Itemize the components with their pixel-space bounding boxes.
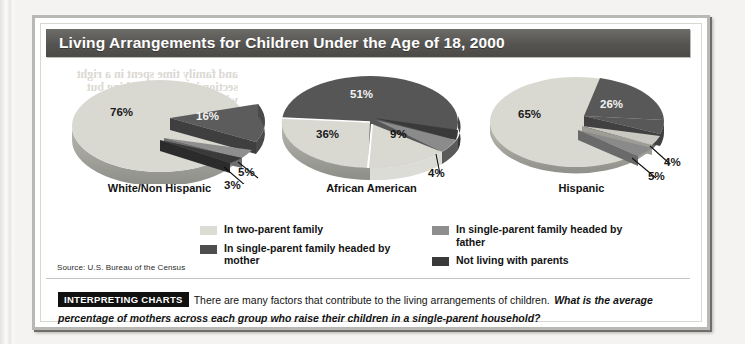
pie-2-slice-label-1: 36% bbox=[316, 128, 339, 140]
legend-label-father: In single-parent family headed by father bbox=[456, 223, 647, 248]
source-note: Source: U.S. Bureau of the Census bbox=[57, 263, 185, 272]
figure-title-bar: Living Arrangements for Children Under t… bbox=[46, 29, 690, 57]
legend-label-two-parent: In two-parent family bbox=[224, 223, 323, 236]
pie-3-slice-label-0: 65% bbox=[518, 108, 541, 120]
chart-legend: In two-parent family In single-parent fa… bbox=[200, 223, 630, 271]
pie-2-graphic: 51% 36% 9% 4% bbox=[264, 66, 479, 184]
pie-2-svg bbox=[264, 66, 479, 184]
interpreting-charts-badge: INTERPRETING CHARTS bbox=[58, 292, 189, 307]
pie-2-caption: African American bbox=[264, 182, 479, 194]
pie-chart-african-american: 51% 36% 9% 4% African American bbox=[264, 66, 479, 211]
pie-3-slice-label-1: 26% bbox=[600, 98, 623, 110]
figure-title: Living Arrangements for Children Under t… bbox=[46, 34, 505, 52]
pie-1-slice-label-0: 76% bbox=[110, 106, 133, 118]
figure-frame: Living Arrangements for Children Under t… bbox=[32, 15, 710, 330]
pie-2-slice-label-3: 4% bbox=[428, 167, 445, 179]
interpreting-charts-body: There are many factors that contribute t… bbox=[194, 294, 550, 306]
pie-chart-hispanic: 65% 26% 4% 5% Hispanic bbox=[474, 66, 689, 211]
legend-column-left: In two-parent family In single-parent fa… bbox=[200, 223, 415, 273]
legend-label-mother: In single-parent family headed by mother bbox=[224, 242, 415, 267]
pie-1-svg bbox=[52, 66, 267, 184]
pie-2-slice-label-0: 51% bbox=[350, 88, 373, 100]
pie-1-slice-label-1: 16% bbox=[196, 110, 219, 122]
pie-3-caption: Hispanic bbox=[474, 182, 689, 194]
legend-item-two-parent: In two-parent family bbox=[200, 223, 415, 236]
pie-chart-white-non-hispanic: and family time spent in a right section… bbox=[52, 66, 267, 211]
legend-swatch-father-icon bbox=[432, 226, 449, 235]
legend-item-mother: In single-parent family headed by mother bbox=[200, 242, 415, 267]
pie-3-slice-label-2: 4% bbox=[664, 156, 681, 168]
pie-3-graphic: 65% 26% 4% 5% bbox=[474, 66, 689, 184]
interpreting-charts-section: INTERPRETING CHARTSThere are many factor… bbox=[46, 282, 690, 324]
legend-swatch-two-parent-icon bbox=[200, 226, 217, 235]
pie-1-graphic: 76% 16% 5% 3% bbox=[52, 66, 267, 184]
legend-item-no-parents: Not living with parents bbox=[432, 254, 647, 267]
legend-item-father: In single-parent family headed by father bbox=[432, 223, 647, 248]
pie-1-caption: White/Non Hispanic bbox=[52, 182, 267, 194]
pie-2-slice-label-2: 9% bbox=[390, 128, 407, 140]
pie-3-slice-label-3: 5% bbox=[648, 170, 665, 182]
section-divider bbox=[46, 278, 690, 279]
charts-row: and family time spent in a right section… bbox=[46, 66, 690, 211]
pie-1-slice-label-2: 5% bbox=[238, 166, 255, 178]
legend-column-right: In single-parent family headed by father… bbox=[432, 223, 647, 273]
pie-3-svg bbox=[474, 66, 689, 184]
scanned-page: Living Arrangements for Children Under t… bbox=[0, 0, 745, 344]
legend-swatch-mother-icon bbox=[200, 245, 217, 254]
legend-swatch-no-parents-icon bbox=[432, 257, 449, 266]
legend-label-no-parents: Not living with parents bbox=[456, 254, 569, 267]
